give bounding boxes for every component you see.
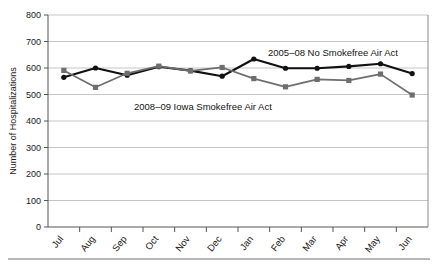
- data-point: [251, 76, 256, 81]
- data-point: [315, 66, 320, 71]
- data-point: [93, 65, 98, 70]
- data-point: [410, 71, 415, 76]
- data-point: [220, 65, 225, 70]
- chart-container: 0100200300400500600700800 JulAugSepOctNo…: [0, 0, 438, 271]
- y-tick-label: 500: [26, 90, 41, 100]
- y-tick-label: 100: [26, 196, 41, 206]
- data-point: [251, 56, 256, 61]
- y-tick-label: 200: [26, 169, 41, 179]
- series-label-iowa-smokefree: 2008–09 Iowa Smokefree Air Act: [134, 101, 272, 112]
- data-point: [156, 64, 161, 69]
- data-point: [283, 84, 288, 89]
- series-label-no-smokefree: 2005–08 No Smokefree Air Act: [268, 47, 398, 58]
- data-point: [283, 66, 288, 71]
- data-point: [378, 71, 383, 76]
- data-point: [346, 78, 351, 83]
- data-point: [378, 61, 383, 66]
- y-tick-label: 800: [26, 10, 41, 20]
- y-tick-label: 600: [26, 63, 41, 73]
- y-axis-title: Number of Hospitalizations: [8, 67, 18, 175]
- data-point: [410, 92, 415, 97]
- y-tick-label: 0: [36, 222, 41, 232]
- data-point: [93, 85, 98, 90]
- data-point: [61, 68, 66, 73]
- data-point: [315, 77, 320, 82]
- data-point: [346, 64, 351, 69]
- data-point: [125, 71, 130, 76]
- data-point: [220, 74, 225, 79]
- y-tick-label: 300: [26, 143, 41, 153]
- y-tick-label: 400: [26, 116, 41, 126]
- line-chart: 0100200300400500600700800 JulAugSepOctNo…: [0, 0, 438, 271]
- data-point: [188, 68, 193, 73]
- data-point: [61, 75, 66, 80]
- chart-background: [0, 0, 438, 271]
- y-tick-label: 700: [26, 37, 41, 47]
